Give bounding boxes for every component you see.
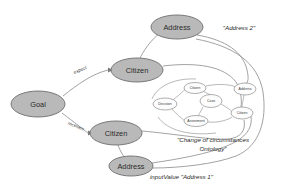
annotation-ontology-line-1: "Change of circumstances — [177, 136, 249, 143]
node-citizen-ontology-label: Citizen — [190, 86, 201, 90]
node-address-ontology-label: Address — [239, 87, 252, 91]
node-address-top-label: Address — [163, 23, 190, 32]
edge-case-to-assesment — [198, 107, 203, 116]
node-citizen-ontology[interactable]: Citizen — [184, 83, 206, 94]
node-address-bottom-label: Address — [117, 162, 144, 171]
annotation-address-2: "Address 2" — [223, 24, 256, 31]
node-citizen-ontology-2[interactable]: Citizen — [231, 107, 253, 119]
node-citizen-bottom-label: Citizen — [105, 129, 128, 138]
node-citizen-ontology-2-label: Citizen — [237, 111, 248, 115]
edge-decision-to-citizen-onto — [173, 88, 185, 100]
annotation-input-value: inputValue "Address 1" — [150, 173, 214, 180]
edge-label-receives: receives — [67, 120, 85, 131]
annotation-ontology-line-2: Ontology" — [200, 145, 228, 152]
node-address-bottom[interactable]: Address — [109, 156, 153, 176]
edge-label-group: expect receives — [67, 65, 88, 132]
node-case[interactable]: Case — [200, 95, 222, 108]
node-assesment[interactable]: Assesment — [184, 116, 208, 127]
diagram-canvas: Goal Citizen Citizen Address Address — [0, 0, 287, 192]
node-citizen-bottom[interactable]: Citizen — [90, 121, 142, 145]
edge-citizen-onto-to-address-onto — [206, 84, 236, 87]
node-assesment-label: Assesment — [187, 119, 204, 123]
node-citizen-top[interactable]: Citizen — [111, 58, 163, 82]
edge-decision-to-assesment — [172, 109, 185, 121]
node-decision-label: Decision — [158, 102, 171, 106]
node-group-ontology: Decision Citizen Case Assesment Address — [153, 83, 256, 127]
node-group-big: Goal Citizen Citizen Address Address — [11, 15, 203, 176]
edge-case-to-citizen-onto2 — [221, 104, 232, 112]
edge-address-onto-to-citizen-onto2 — [242, 95, 244, 107]
graph-svg: Goal Citizen Citizen Address Address — [0, 0, 287, 192]
node-address-ontology[interactable]: Address — [234, 83, 256, 95]
node-decision[interactable]: Decision — [153, 98, 177, 110]
edge-address-top-to-ontology-address — [197, 35, 248, 83]
node-goal-label: Goal — [30, 100, 46, 109]
edge-label-expect: expect — [73, 65, 88, 75]
node-case-label: Case — [207, 99, 215, 103]
edge-goal-to-citizen-top — [63, 70, 108, 96]
node-citizen-top-label: Citizen — [126, 66, 149, 75]
edge-assesment-loop — [208, 117, 232, 122]
node-goal[interactable]: Goal — [11, 91, 65, 117]
node-address-top[interactable]: Address — [151, 15, 203, 39]
